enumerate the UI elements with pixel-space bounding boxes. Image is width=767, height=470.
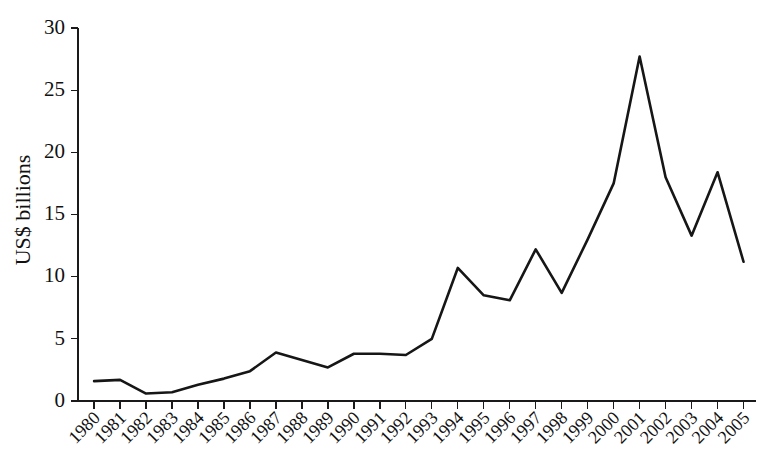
y-tick-label: 0 [55, 388, 66, 412]
x-axis-ticks: 1980198119821983198419851986198719881989… [64, 401, 753, 447]
y-tick-label: 10 [44, 263, 65, 287]
x-tick-label: 2005 [714, 408, 754, 448]
y-tick-label: 20 [44, 139, 65, 163]
chart-plot-area: US$ billions 051015202530 19801981198219… [0, 0, 767, 470]
line-chart-figure: US$ billions 051015202530 19801981198219… [0, 0, 767, 470]
y-tick-label: 30 [44, 15, 65, 39]
y-axis-title-group: US$ billions [10, 155, 35, 266]
y-tick-label: 15 [44, 201, 65, 225]
y-tick-label: 25 [44, 77, 65, 101]
y-axis-ticks: 051015202530 [44, 15, 78, 412]
y-tick-label: 5 [55, 326, 66, 350]
data-series-line [94, 57, 743, 394]
y-axis-title: US$ billions [10, 155, 35, 266]
